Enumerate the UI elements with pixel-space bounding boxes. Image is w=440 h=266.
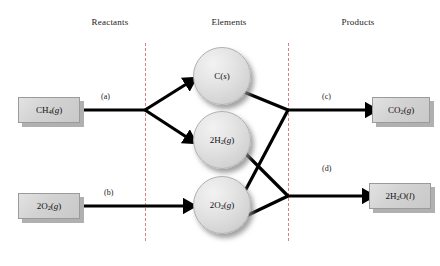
path-label-c: (c) bbox=[322, 92, 331, 101]
line-oxygen-to-co2-junction bbox=[244, 110, 288, 193]
divider-line-right bbox=[288, 43, 289, 241]
column-header-reactants: Reactants bbox=[70, 17, 150, 27]
element-circle-carbon: C(s) bbox=[193, 47, 251, 105]
product-box-co2: CO2(g) bbox=[372, 97, 430, 123]
reaction-pathway-diagram: Reactants Elements Products bbox=[0, 0, 440, 266]
line-oxygen-to-h2o-junction bbox=[246, 196, 288, 216]
path-label-a: (a) bbox=[101, 92, 110, 101]
product-box-h2o: 2H2O(l) bbox=[369, 183, 431, 209]
column-header-elements: Elements bbox=[189, 17, 269, 27]
divider-line-left bbox=[145, 43, 146, 241]
column-header-products: Products bbox=[318, 17, 398, 27]
reactant-box-o2: 2O2(g) bbox=[18, 193, 80, 219]
path-label-d: (d) bbox=[322, 164, 331, 173]
element-label-oxygen: 2O2(g) bbox=[210, 200, 235, 210]
reactant-label-o2: 2O2(g) bbox=[37, 201, 62, 211]
line-hydrogen-to-h2o-junction bbox=[244, 152, 288, 196]
product-label-co2: CO2(g) bbox=[388, 105, 414, 115]
product-label-h2o: 2H2O(l) bbox=[385, 191, 414, 201]
element-circle-oxygen: 2O2(g) bbox=[193, 176, 251, 234]
arrow-junction-to-hydrogen bbox=[145, 110, 188, 138]
path-label-b: (b) bbox=[104, 188, 113, 197]
reactant-label-ch4: CH4(g) bbox=[36, 105, 62, 115]
element-label-hydrogen: 2H2(g) bbox=[210, 135, 235, 145]
element-label-carbon: C(s) bbox=[214, 71, 230, 81]
reactant-box-ch4: CH4(g) bbox=[18, 97, 80, 123]
element-circle-hydrogen: 2H2(g) bbox=[193, 111, 251, 169]
line-carbon-to-co2-junction bbox=[244, 92, 288, 110]
arrow-junction-to-carbon bbox=[145, 83, 188, 110]
